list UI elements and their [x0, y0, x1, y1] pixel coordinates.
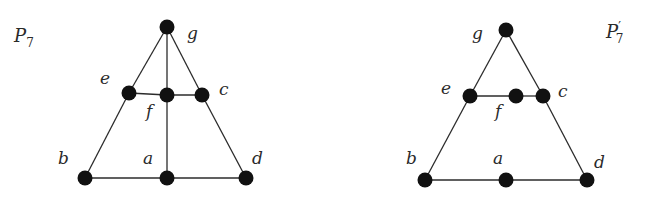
node-label-a: a [493, 148, 503, 168]
node-label-e: e [100, 68, 110, 88]
nodes [78, 20, 254, 186]
graph-p7-prime: gefcbad P′7 [406, 20, 624, 188]
nodes [418, 23, 595, 188]
node-e [463, 89, 478, 104]
edge-c-d [543, 96, 587, 180]
node-d [580, 173, 595, 188]
edges [425, 30, 587, 180]
node-label-g: g [187, 23, 198, 43]
node-f [509, 89, 524, 104]
node-b [418, 173, 433, 188]
node-c [536, 89, 551, 104]
edges [85, 27, 246, 178]
node-d [239, 171, 254, 186]
title-subscript: 7 [616, 32, 624, 46]
edge-e-b [425, 96, 470, 180]
node-label-e: e [441, 78, 451, 98]
node-b [78, 171, 93, 186]
graph-p7: gefcbad P7 [13, 20, 263, 186]
edge-e-b [85, 93, 129, 178]
graph-title: P7 [13, 25, 34, 50]
node-label-d: d [594, 152, 605, 172]
node-label-c: c [219, 79, 229, 99]
title-subscript: 7 [26, 36, 34, 50]
node-labels: gefcbad [406, 23, 605, 172]
node-c [195, 88, 210, 103]
edge-g-c [506, 30, 543, 96]
node-f [160, 88, 175, 103]
node-label-d: d [252, 148, 263, 168]
node-a [160, 171, 175, 186]
node-g [160, 20, 175, 35]
node-a [499, 173, 514, 188]
graph-diagram: gefcbad P7 gefcbad P′7 [0, 0, 648, 203]
node-label-f: f [493, 101, 504, 121]
node-label-b: b [58, 148, 69, 168]
node-label-c: c [558, 81, 568, 101]
graph-title: P′7 [605, 20, 624, 46]
node-g [499, 23, 514, 38]
node-label-f: f [144, 101, 155, 121]
node-label-g: g [472, 23, 483, 43]
node-label-a: a [143, 148, 153, 168]
node-e [122, 86, 137, 101]
node-label-b: b [406, 148, 417, 168]
edge-g-e [129, 27, 167, 93]
edge-c-d [202, 95, 246, 178]
